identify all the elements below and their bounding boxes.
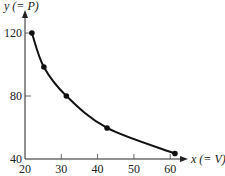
y-tick-label: 80 bbox=[10, 89, 22, 103]
data-point-marker bbox=[172, 151, 178, 157]
x-axis-label: x (= V) bbox=[190, 152, 225, 166]
chart: 20304050604080120 y (= P) x (= V) bbox=[0, 0, 225, 176]
y-axis-label: y (= P) bbox=[3, 0, 39, 13]
y-tick-label: 40 bbox=[10, 152, 22, 166]
series-line bbox=[32, 33, 175, 153]
x-tick-label: 60 bbox=[164, 162, 176, 176]
x-tick-label: 30 bbox=[55, 162, 67, 176]
data-series bbox=[29, 30, 178, 156]
data-point-marker bbox=[29, 30, 35, 36]
data-point-marker bbox=[64, 93, 70, 99]
x-tick-label: 40 bbox=[92, 162, 104, 176]
x-axis-arrow-icon bbox=[180, 156, 188, 162]
ticks: 20304050604080120 bbox=[4, 26, 176, 176]
axes bbox=[22, 10, 188, 162]
data-point-marker bbox=[41, 64, 47, 70]
y-tick-label: 120 bbox=[4, 26, 22, 40]
data-point-marker bbox=[104, 125, 110, 131]
x-tick-label: 50 bbox=[128, 162, 140, 176]
